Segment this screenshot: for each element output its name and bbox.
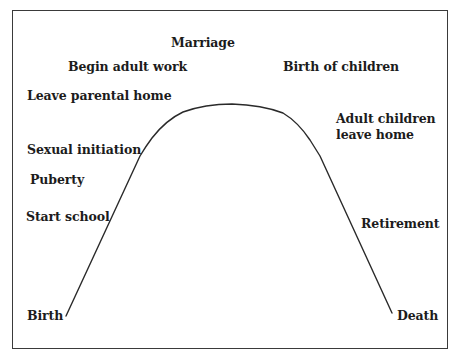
label-sexual-initiation: Sexual initiation [27,142,141,157]
label-start-school: Start school [26,209,110,224]
label-leave-home: leave home [336,127,414,142]
label-retirement: Retirement [361,216,439,231]
label-begin-adult-work: Begin adult work [68,59,187,74]
label-puberty: Puberty [30,172,84,187]
label-leave-parental-home: Leave parental home [27,88,172,103]
label-birth: Birth [27,308,63,323]
label-death: Death [397,308,438,323]
label-adult-children: Adult children [336,111,436,126]
label-birth-of-children: Birth of children [283,59,399,74]
label-marriage: Marriage [171,35,235,50]
